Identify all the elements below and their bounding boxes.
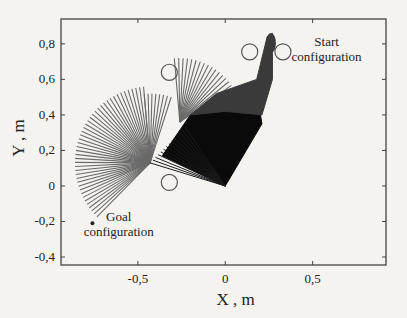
y-axis-title: Y , m xyxy=(9,119,28,157)
y-tick-label: 0,6 xyxy=(39,71,56,86)
plot-area xyxy=(75,33,291,225)
x-tick-label: -0,5 xyxy=(128,271,149,286)
y-tick-label: -0,2 xyxy=(34,213,55,228)
y-tick-label: 0 xyxy=(49,178,56,193)
goal-configuration-label: Goalconfiguration xyxy=(84,209,155,239)
annotation-line: configuration xyxy=(292,49,363,64)
annotation-line: Start xyxy=(314,34,339,49)
obstacle-circle xyxy=(161,64,177,80)
start-configuration-label: Startconfiguration xyxy=(292,34,363,64)
y-tick-label: 0,8 xyxy=(39,36,55,51)
y-tick-label: -0,4 xyxy=(34,249,55,264)
x-tick-label: 0,5 xyxy=(304,271,320,286)
x-tick-label: 0 xyxy=(222,271,229,286)
chart: -0,500,50,80,60,40,20-0,2-0,4 X , m Y , … xyxy=(0,0,407,318)
x-axis-title: X , m xyxy=(216,290,254,309)
y-tick-label: 0,4 xyxy=(39,107,56,122)
obstacle-circle xyxy=(242,44,258,60)
obstacle-circle xyxy=(161,174,177,190)
annotation-line: Goal xyxy=(106,209,132,224)
start-configuration-tip xyxy=(266,33,276,53)
obstacle-circle xyxy=(275,44,291,60)
goal-fan xyxy=(75,87,150,217)
y-tick-label: 0,2 xyxy=(39,142,55,157)
annotation-line: configuration xyxy=(84,224,155,239)
